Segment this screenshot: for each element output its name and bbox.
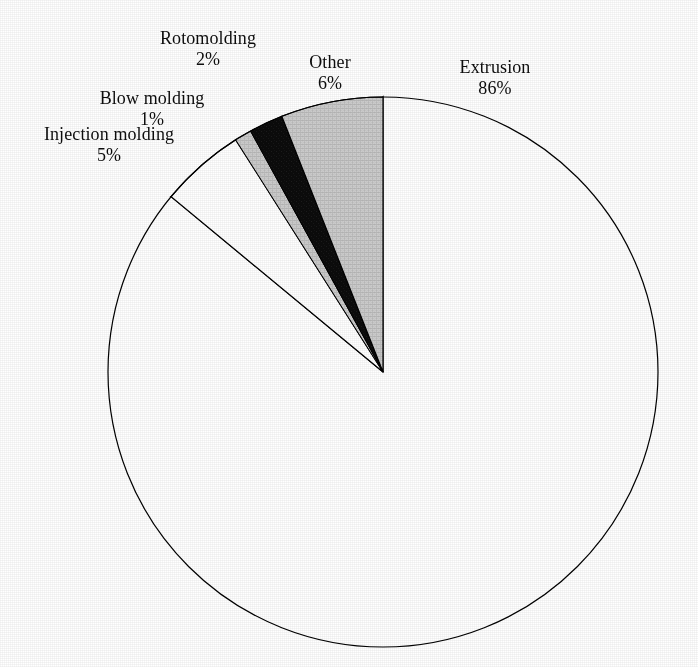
pie-label-blow-molding-name: Blow molding	[52, 88, 252, 109]
pie-chart-figure: Rotomolding 2% Other 6% Extrusion 86% Bl…	[0, 0, 698, 667]
pie-label-injection-molding-percent: 5%	[0, 145, 218, 166]
pie-label-injection-molding-name: Injection molding	[0, 124, 218, 145]
pie-label-other: Other 6%	[250, 52, 410, 94]
pie-label-rotomolding-name: Rotomolding	[108, 28, 308, 49]
pie-label-extrusion-name: Extrusion	[400, 57, 590, 78]
pie-label-other-percent: 6%	[250, 73, 410, 94]
chart-stage: Rotomolding 2% Other 6% Extrusion 86% Bl…	[0, 0, 698, 667]
pie-label-other-name: Other	[250, 52, 410, 73]
pie-label-extrusion: Extrusion 86%	[400, 57, 590, 99]
pie-label-extrusion-percent: 86%	[400, 78, 590, 99]
pie-label-injection-molding: Injection molding 5%	[0, 124, 218, 166]
